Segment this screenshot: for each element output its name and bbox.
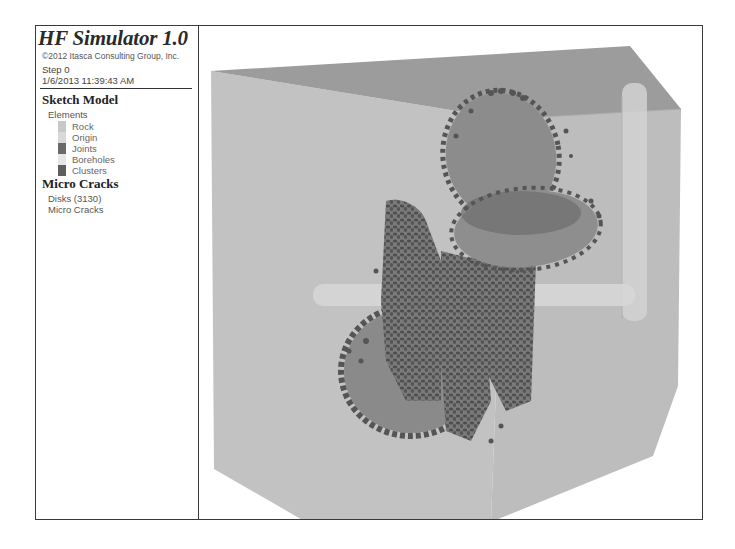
legend-item-rock[interactable]: Rock <box>58 121 94 132</box>
rock-swatch-icon <box>58 121 66 132</box>
legend-item-origin[interactable]: Origin <box>58 132 97 143</box>
copyright-text: ©2012 Itasca Consulting Group, Inc. <box>42 51 179 61</box>
clusters-swatch-icon <box>58 165 66 176</box>
legend-item-label: Boreholes <box>72 154 115 165</box>
elements-label: Elements <box>48 109 88 120</box>
boreholes-swatch-icon <box>58 154 66 165</box>
timestamp: 1/6/2013 11:39:43 AM <box>42 75 134 86</box>
disks-count: Disks (3130) <box>48 193 101 204</box>
legend-item-joints[interactable]: Joints <box>58 143 97 154</box>
legend-item-label: Joints <box>72 143 97 154</box>
model-render <box>199 26 702 519</box>
micro-cracks-label: Micro Cracks <box>48 204 103 215</box>
origin-swatch-icon <box>58 132 66 143</box>
legend-item-label: Rock <box>72 121 94 132</box>
legend-item-label: Origin <box>72 132 97 143</box>
sketch-model-heading: Sketch Model <box>42 92 118 108</box>
3d-viewport[interactable] <box>199 26 702 519</box>
micro-cracks-heading: Micro Cracks <box>42 176 119 192</box>
app-title: HF Simulator 1.0 <box>38 26 188 51</box>
legend-item-clusters[interactable]: Clusters <box>58 165 107 176</box>
step-label: Step 0 <box>42 64 69 75</box>
divider <box>40 88 192 89</box>
legend-panel: HF Simulator 1.0 ©2012 Itasca Consulting… <box>36 26 199 519</box>
legend-item-label: Clusters <box>72 165 107 176</box>
joints-swatch-icon <box>58 143 66 154</box>
legend-item-boreholes[interactable]: Boreholes <box>58 154 115 165</box>
application-frame: HF Simulator 1.0 ©2012 Itasca Consulting… <box>35 25 703 520</box>
